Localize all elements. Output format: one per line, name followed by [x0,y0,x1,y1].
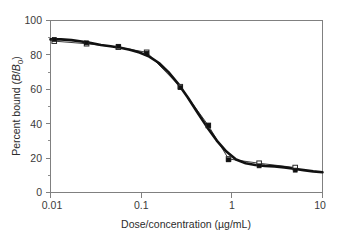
data-point-filled [206,123,210,127]
data-layer [51,37,323,172]
y-tick-label-60: 60 [30,83,42,95]
data-point-filled [293,168,297,172]
y-tick-label-100: 100 [24,14,42,26]
filled-square-markers [52,37,297,172]
data-point-filled [178,86,182,90]
y-tick-label-20: 20 [30,152,42,164]
y-tick-label-80: 80 [30,49,42,61]
x-axis-tick-labels: 0.01 0.1 1 10 [42,199,326,211]
y-axis-title-prefix: Percent bound ( [10,81,22,156]
y-axis: 0 20 40 60 80 100 [24,14,50,198]
x-tick-label-001: 0.01 [42,199,63,211]
x-tick-label-01: 0.1 [134,199,149,211]
y-tick-label-40: 40 [30,118,42,130]
data-point-filled [85,41,89,45]
x-tick-label-1: 1 [229,199,235,211]
data-point-filled [145,51,149,55]
dose-response-chart: 0 20 40 60 80 100 0.01 0.1 1 10 [0,0,342,242]
x-axis-ticks-major [51,193,323,198]
y-axis-title-suffix: ) [10,56,22,60]
data-point-filled [52,37,56,41]
data-point-filled [227,158,231,162]
y-tick-label-0: 0 [36,186,42,198]
primary-fit-curve [51,39,323,172]
x-axis: 0.01 0.1 1 10 [42,193,326,212]
x-axis-title: Dose/concentration (µg/mL) [121,218,251,230]
y-axis-title-b2: B [10,64,22,71]
x-tick-label-10: 10 [314,199,326,211]
chart-figure: 0 20 40 60 80 100 0.01 0.1 1 10 [0,0,342,242]
y-axis-title-b1: B [10,74,22,81]
open-square-markers [52,39,298,170]
secondary-trace-line [54,41,295,167]
y-axis-title: Percent bound (B/B0) [10,56,25,156]
y-axis-tick-labels: 0 20 40 60 80 100 [24,14,42,198]
y-axis-title-group: Percent bound (B/B0) [10,56,25,156]
data-point-filled [116,44,120,48]
data-point-filled [257,164,261,168]
